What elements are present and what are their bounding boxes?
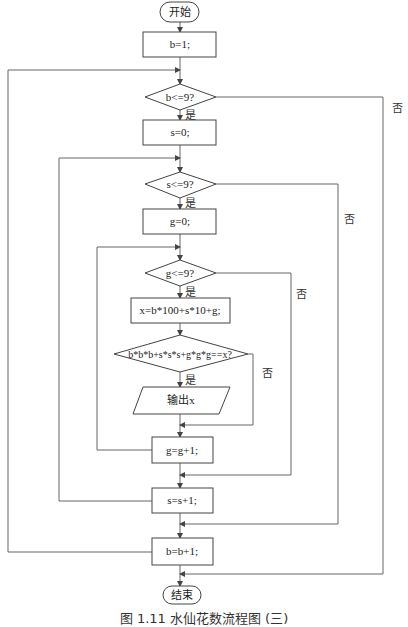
svg-text:开始: 开始 — [169, 5, 191, 18]
svg-text:s<=9?: s<=9? — [166, 178, 193, 190]
svg-text:x=b*100+s*10+g;: x=b*100+s*10+g; — [140, 304, 221, 316]
yes-label-s: 是 — [185, 197, 196, 210]
process-inc-g: g=g+1; — [152, 437, 213, 463]
svg-text:b=1;: b=1; — [170, 38, 190, 50]
process-inc-b: b=b+1; — [152, 538, 213, 565]
svg-text:g=0;: g=0; — [170, 215, 190, 227]
decision-narcissistic: b*b*b+s*s*s+g*g*g==x? — [114, 335, 248, 372]
edge-labels: 是 是 是 是 否 否 否 否 — [185, 102, 403, 387]
yes-label-b: 是 — [185, 109, 196, 122]
process-init-b: b=1; — [143, 32, 216, 57]
yes-label-g: 是 — [185, 286, 196, 299]
svg-text:s=0;: s=0; — [170, 126, 189, 138]
end-terminal: 结束 — [163, 586, 201, 604]
decision-b: b<=9? — [145, 84, 216, 110]
process-calc-x: x=b*100+s*10+g; — [131, 298, 230, 323]
decision-s: s<=9? — [145, 172, 216, 198]
no-label-g: 否 — [296, 288, 307, 301]
figure-caption: 图 1.11 水仙花数流程图 (三) — [0, 608, 408, 627]
yes-label-narc: 是 — [185, 374, 196, 387]
output-x: 输出x — [133, 387, 230, 414]
svg-text:b*b*b+s*s*s+g*g*g==x?: b*b*b+s*s*s+g*g*g==x? — [128, 349, 232, 360]
svg-text:结束: 结束 — [171, 589, 193, 601]
process-init-g: g=0; — [143, 209, 216, 234]
no-label-b: 否 — [392, 102, 403, 115]
svg-text:g<=9?: g<=9? — [166, 267, 194, 279]
svg-text:g=g+1;: g=g+1; — [166, 444, 198, 456]
process-init-s: s=0; — [143, 120, 216, 145]
no-label-s: 否 — [344, 213, 355, 226]
start-terminal: 开始 — [160, 2, 199, 22]
decision-g: g<=9? — [145, 260, 216, 286]
no-label-narc: 否 — [262, 367, 273, 380]
svg-text:b=b+1;: b=b+1; — [166, 545, 198, 557]
process-inc-s: s=s+1; — [152, 488, 213, 513]
svg-text:b<=9?: b<=9? — [166, 91, 194, 103]
svg-text:s=s+1;: s=s+1; — [167, 494, 197, 506]
svg-text:输出x: 输出x — [167, 393, 195, 406]
